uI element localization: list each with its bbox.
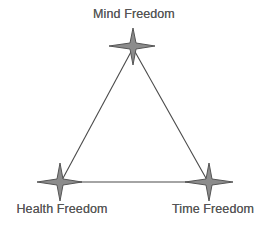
freedom-triangle-diagram: Mind Freedom Health Freedom Time Freedom [0, 0, 271, 229]
four-point-star-icon [37, 163, 82, 201]
edge-mind-health [62, 50, 132, 180]
four-point-star-icon [109, 28, 155, 65]
four-point-star-icon [185, 163, 233, 201]
diagram-canvas [0, 0, 271, 229]
node-label-time-freedom: Time Freedom [172, 202, 254, 216]
node-label-health-freedom: Health Freedom [16, 202, 107, 216]
edge-mind-time [134, 50, 207, 180]
node-label-mind-freedom: Mind Freedom [93, 7, 175, 21]
